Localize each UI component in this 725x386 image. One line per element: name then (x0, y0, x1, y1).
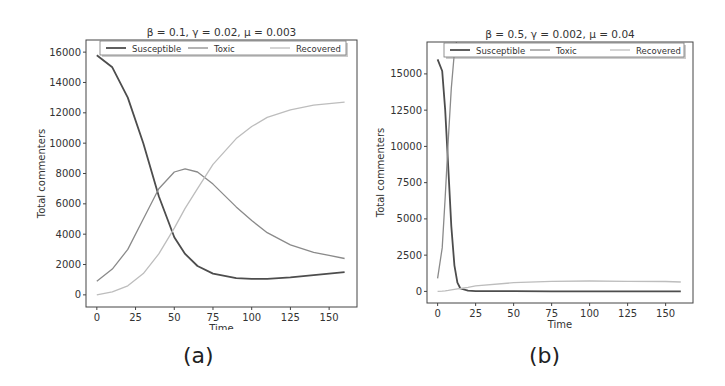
y-tick-label: 15000 (390, 68, 422, 79)
y-tick-label: 5000 (397, 213, 422, 224)
x-tick-label: 25 (129, 312, 142, 323)
y-tick-label: 10000 (49, 138, 81, 149)
x-tick-label: 50 (168, 312, 181, 323)
chart-b: β = 0.5, γ = 0.002, μ = 0.04025005000750… (362, 0, 725, 330)
y-tick-label: 8000 (56, 168, 81, 179)
series-line-recovered (438, 281, 681, 291)
series-line-toxic (438, 30, 681, 278)
chart-title: β = 0.5, γ = 0.002, μ = 0.04 (485, 28, 635, 40)
y-tick-label: 16000 (49, 47, 81, 58)
y-tick-label: 12000 (49, 107, 81, 118)
x-axis-label: Time (547, 319, 572, 330)
y-axis-label: Total commenters (36, 129, 47, 220)
chart-a: β = 0.1, γ = 0.02, μ = 0.003020004000600… (0, 0, 362, 330)
plot-frame (86, 40, 357, 307)
caption-a: (a) (183, 343, 214, 368)
legend-label-toxic: Toxic (555, 46, 577, 56)
series-line-recovered (97, 102, 345, 295)
x-axis-label: Time (208, 323, 233, 330)
y-tick-label: 10000 (390, 141, 422, 152)
y-tick-label: 2500 (397, 250, 422, 261)
legend: SusceptibleToxicRecovered (444, 43, 686, 59)
x-tick-label: 75 (207, 312, 220, 323)
chart-panel-b: β = 0.5, γ = 0.002, μ = 0.04025005000750… (362, 0, 725, 386)
y-axis-label: Total commenters (375, 128, 386, 219)
legend-label-recovered: Recovered (636, 46, 681, 56)
x-tick-label: 75 (545, 308, 558, 319)
series-line-susceptible (438, 59, 681, 291)
x-tick-label: 150 (320, 312, 339, 323)
x-tick-label: 150 (656, 308, 675, 319)
x-tick-label: 100 (242, 312, 261, 323)
x-tick-label: 100 (580, 308, 599, 319)
x-tick-label: 25 (469, 308, 482, 319)
legend-label-susceptible: Susceptible (476, 46, 525, 56)
chart-title: β = 0.1, γ = 0.02, μ = 0.003 (147, 26, 297, 38)
legend-label-recovered: Recovered (296, 44, 341, 54)
series-line-susceptible (97, 55, 345, 279)
x-tick-label: 50 (507, 308, 520, 319)
legend-label-susceptible: Susceptible (132, 44, 181, 54)
y-tick-label: 14000 (49, 77, 81, 88)
y-tick-label: 0 (416, 286, 422, 297)
y-tick-label: 7500 (397, 177, 422, 188)
x-tick-label: 0 (94, 312, 100, 323)
y-tick-label: 4000 (56, 229, 81, 240)
y-tick-label: 2000 (56, 259, 81, 270)
y-tick-label: 0 (75, 289, 81, 300)
series-line-toxic (97, 169, 345, 281)
x-tick-label: 125 (618, 308, 637, 319)
legend: SusceptibleToxicRecovered (100, 41, 348, 57)
x-tick-label: 125 (281, 312, 300, 323)
plot-frame (427, 42, 693, 303)
legend-label-toxic: Toxic (213, 44, 235, 54)
y-tick-label: 6000 (56, 198, 81, 209)
caption-b: (b) (529, 343, 560, 368)
chart-panel-a: β = 0.1, γ = 0.02, μ = 0.003020004000600… (0, 0, 362, 386)
y-tick-label: 12500 (390, 105, 422, 116)
x-tick-label: 0 (434, 308, 440, 319)
